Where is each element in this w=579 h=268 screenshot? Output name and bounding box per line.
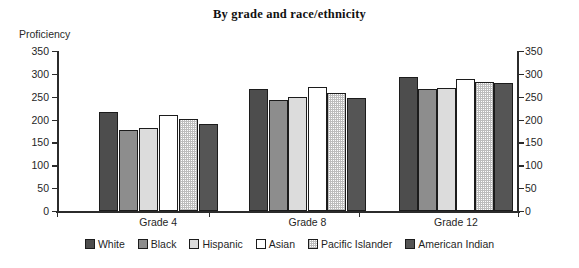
bar bbox=[99, 112, 118, 211]
y-axis-right-tick-labels: 350300250200150100500 bbox=[525, 51, 574, 211]
y-tick-label-right: 150 bbox=[525, 137, 573, 148]
bar-group bbox=[249, 51, 366, 211]
bar bbox=[139, 128, 158, 211]
y-tick-right bbox=[519, 51, 524, 52]
bar bbox=[327, 93, 346, 211]
legend-label: American Indian bbox=[418, 238, 494, 250]
bar bbox=[249, 89, 268, 212]
bar bbox=[119, 130, 138, 211]
bar bbox=[159, 115, 178, 211]
legend-item[interactable]: Black bbox=[138, 238, 177, 250]
y-tick-label-left: 50 bbox=[1, 183, 49, 194]
y-tick-left bbox=[52, 51, 57, 52]
legend-swatch-icon bbox=[256, 239, 266, 249]
bar bbox=[418, 89, 437, 211]
legend-item[interactable]: American Indian bbox=[405, 238, 494, 250]
x-axis-separator bbox=[518, 211, 519, 217]
legend-label: Hispanic bbox=[202, 238, 242, 250]
legend-swatch-icon bbox=[138, 239, 148, 249]
legend-label: Pacific Islander bbox=[321, 238, 392, 250]
y-tick-label-right: 100 bbox=[525, 160, 573, 171]
legend-swatch-icon bbox=[308, 239, 318, 249]
bar bbox=[308, 87, 327, 211]
y-tick-label-left: 200 bbox=[1, 115, 49, 126]
y-tick-left bbox=[52, 142, 57, 143]
bar bbox=[475, 82, 494, 211]
y-tick-label-right: 350 bbox=[525, 46, 573, 57]
y-tick-right bbox=[519, 97, 524, 98]
bar bbox=[269, 100, 288, 211]
y-tick-left bbox=[52, 188, 57, 189]
legend-label: White bbox=[98, 238, 125, 250]
y-tick-right bbox=[519, 165, 524, 166]
y-tick-left bbox=[52, 120, 57, 121]
x-axis-group-label: Grade 4 bbox=[98, 216, 218, 228]
y-axis-left-line bbox=[57, 51, 59, 211]
y-tick-right bbox=[519, 142, 524, 143]
bar-group bbox=[399, 51, 513, 211]
y-tick-label-left: 300 bbox=[1, 69, 49, 80]
legend-swatch-icon bbox=[85, 239, 95, 249]
chart-title: By grade and race/ethnicity bbox=[0, 7, 579, 22]
bar bbox=[494, 83, 513, 211]
legend-item[interactable]: White bbox=[85, 238, 125, 250]
y-tick-label-right: 300 bbox=[525, 69, 573, 80]
y-tick-right bbox=[519, 188, 524, 189]
y-tick-right bbox=[519, 120, 524, 121]
y-tick-left bbox=[52, 165, 57, 166]
y-axis-label: Proficiency bbox=[19, 28, 70, 40]
y-tick-label-right: 250 bbox=[525, 92, 573, 103]
bar bbox=[199, 124, 218, 211]
y-tick-label-right: 0 bbox=[525, 206, 573, 217]
legend-label: Asian bbox=[269, 238, 295, 250]
plot-area bbox=[57, 51, 519, 211]
y-tick-left bbox=[52, 97, 57, 98]
bar bbox=[179, 119, 198, 211]
legend-item[interactable]: Hispanic bbox=[189, 238, 242, 250]
y-tick-right bbox=[519, 211, 524, 212]
legend-swatch-icon bbox=[189, 239, 199, 249]
legend-swatch-icon bbox=[405, 239, 415, 249]
bar-group bbox=[99, 51, 218, 211]
chart-legend: WhiteBlackHispanicAsianPacific IslanderA… bbox=[0, 238, 579, 250]
bar bbox=[399, 77, 418, 211]
x-axis-group-label: Grade 8 bbox=[248, 216, 368, 228]
y-tick-label-left: 350 bbox=[1, 46, 49, 57]
y-tick-label-left: 150 bbox=[1, 137, 49, 148]
bar bbox=[437, 88, 456, 211]
y-tick-label-right: 200 bbox=[525, 115, 573, 126]
x-axis-group-label: Grade 12 bbox=[396, 216, 516, 228]
y-axis-left-tick-labels: 350300250200150100500 bbox=[0, 51, 49, 211]
y-tick-left bbox=[52, 74, 57, 75]
y-tick-label-left: 100 bbox=[1, 160, 49, 171]
y-tick-label-left: 0 bbox=[1, 206, 49, 217]
bar bbox=[347, 98, 366, 211]
x-axis-line bbox=[56, 211, 520, 213]
y-tick-right bbox=[519, 74, 524, 75]
legend-label: Black bbox=[151, 238, 177, 250]
y-tick-label-left: 250 bbox=[1, 92, 49, 103]
legend-item[interactable]: Pacific Islander bbox=[308, 238, 392, 250]
legend-item[interactable]: Asian bbox=[256, 238, 295, 250]
x-axis-separator bbox=[57, 211, 58, 217]
bar bbox=[456, 79, 475, 211]
bar bbox=[288, 97, 307, 211]
y-tick-label-right: 50 bbox=[525, 183, 573, 194]
